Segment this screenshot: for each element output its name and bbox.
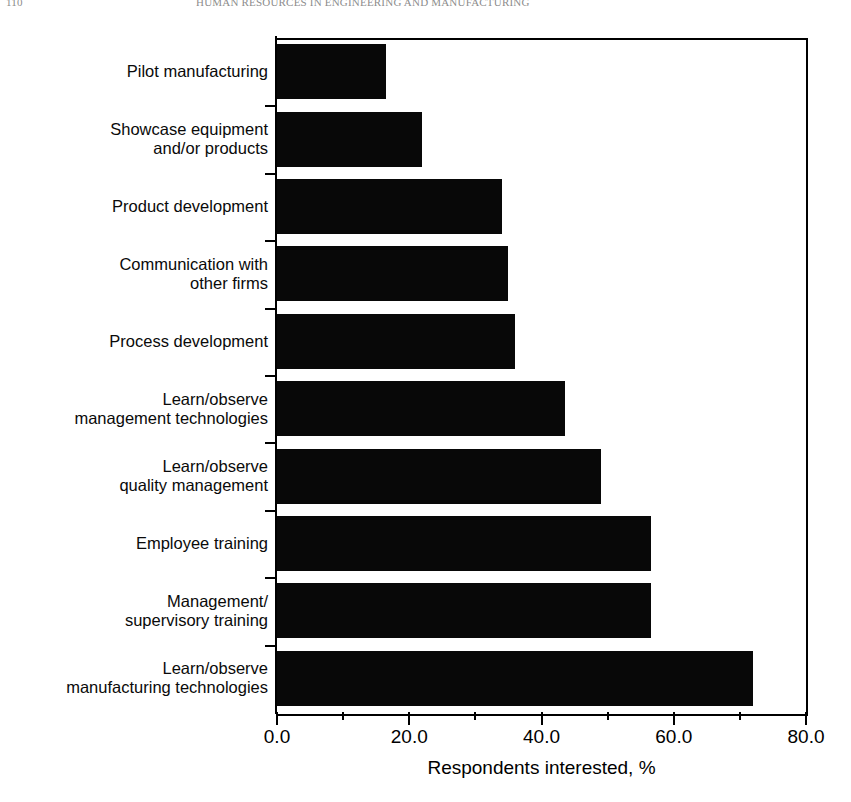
bar <box>277 651 753 706</box>
y-axis-tick <box>265 577 277 579</box>
category-label: Pilot manufacturing <box>127 62 268 81</box>
bar <box>277 583 651 638</box>
bar <box>277 314 515 369</box>
x-axis-tick-label: 60.0 <box>655 726 692 748</box>
y-axis-tick <box>265 375 277 377</box>
x-axis-tick-label: 20.0 <box>391 726 428 748</box>
category-label: Showcase equipment and/or products <box>110 120 268 158</box>
bar <box>277 246 508 301</box>
x-axis-minor-tick <box>739 712 741 720</box>
x-axis-major-tick <box>408 712 410 725</box>
category-label: Process development <box>109 332 268 351</box>
category-label: Employee training <box>136 534 268 553</box>
x-axis-tick-label: 40.0 <box>523 726 560 748</box>
category-label: Product development <box>112 197 268 216</box>
x-axis-major-tick <box>276 712 278 725</box>
bar <box>277 381 565 436</box>
bar <box>277 449 601 504</box>
category-label: Learn/observe management technologies <box>74 390 268 428</box>
x-axis-major-tick <box>673 712 675 725</box>
x-axis-major-tick <box>541 712 543 725</box>
y-axis-tick <box>265 442 277 444</box>
x-axis-minor-tick <box>342 712 344 720</box>
x-axis-title: Respondents interested, % <box>277 757 806 779</box>
x-axis-tick-label: 0.0 <box>264 726 290 748</box>
bar <box>277 112 422 167</box>
y-axis-tick <box>265 240 277 242</box>
bar-chart-figure: Pilot manufacturingShowcase equipment an… <box>0 0 851 802</box>
x-axis-major-tick <box>805 712 807 725</box>
category-label: Communication with other firms <box>119 255 268 293</box>
category-label: Learn/observe quality management <box>119 457 268 495</box>
bar-row <box>0 516 851 571</box>
x-axis-minor-tick <box>474 712 476 720</box>
x-axis-minor-tick <box>607 712 609 720</box>
y-axis-tick <box>265 645 277 647</box>
bar <box>277 44 386 99</box>
y-axis-tick <box>265 105 277 107</box>
bar <box>277 179 502 234</box>
bar <box>277 516 651 571</box>
y-axis-tick <box>265 510 277 512</box>
x-axis-tick-label: 80.0 <box>788 726 825 748</box>
category-label: Learn/observe manufacturing technologies <box>66 659 268 697</box>
y-axis-tick <box>265 308 277 310</box>
category-label: Management/ supervisory training <box>125 592 268 630</box>
y-axis-tick <box>265 173 277 175</box>
